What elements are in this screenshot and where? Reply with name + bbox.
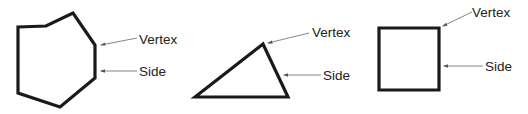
heptagon-vertex-label: Vertex	[139, 32, 178, 47]
square-vertex-leader-line	[443, 12, 472, 26]
triangle-vertex-arrowhead-icon	[267, 41, 273, 44]
heptagon-shape	[18, 13, 95, 107]
heptagon-vertex-arrowhead-icon	[100, 43, 106, 46]
square-side-label: Side	[485, 59, 512, 74]
square-vertex-label: Vertex	[472, 5, 511, 20]
triangle-vertex-label: Vertex	[312, 25, 351, 40]
triangle-vertex-leader-line	[268, 33, 309, 43]
triangle-side-label: Side	[323, 68, 350, 83]
square-side-arrowhead-icon	[443, 64, 448, 67]
square-shape	[379, 28, 439, 90]
triangle-shape	[195, 44, 288, 97]
heptagon-figure: Vertex Side	[18, 13, 178, 107]
heptagon-side-arrowhead-icon	[100, 69, 105, 72]
heptagon-vertex-leader-line	[101, 38, 137, 45]
triangle-side-arrowhead-icon	[283, 73, 288, 76]
square-figure: Vertex Side	[379, 5, 512, 90]
triangle-figure: Vertex Side	[195, 25, 351, 97]
square-vertex-arrowhead-icon	[442, 23, 447, 27]
heptagon-side-label: Side	[139, 64, 166, 79]
polygon-parts-diagram: Vertex Side Vertex Side Vertex Side	[0, 0, 528, 114]
